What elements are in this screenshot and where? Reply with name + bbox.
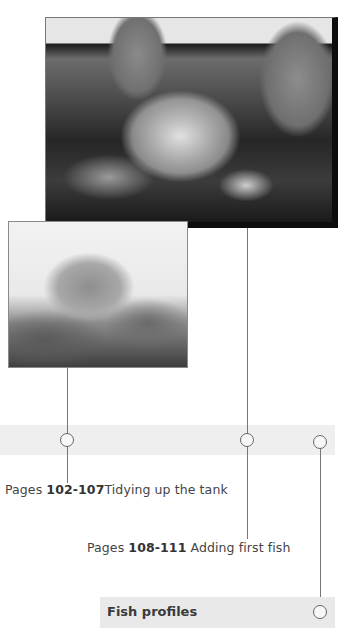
left-photo — [8, 221, 188, 368]
caption-adding-fish: Pages 108-111 Adding first fish — [87, 540, 290, 555]
top-photo — [45, 17, 338, 228]
caption-title: Tidying up the tank — [104, 482, 227, 497]
fish-profiles-marker[interactable] — [313, 605, 327, 619]
connector-line-3 — [320, 448, 321, 612]
connector-line-2 — [247, 228, 248, 539]
timeline-marker-1[interactable] — [60, 433, 74, 447]
connector-line-1 — [67, 368, 68, 483]
pages-label: Pages — [87, 540, 124, 555]
fish-profiles-label: Fish profiles — [107, 604, 197, 619]
pages-label: Pages — [5, 482, 42, 497]
caption-tidying-tank: Pages 102-107Tidying up the tank — [5, 482, 228, 497]
timeline-marker-2[interactable] — [240, 433, 254, 447]
timeline-band — [0, 425, 335, 455]
caption-title: Adding first fish — [191, 540, 291, 555]
page-range: 102-107 — [46, 482, 104, 497]
timeline-marker-3[interactable] — [313, 435, 327, 449]
page-range: 108-111 — [128, 540, 186, 555]
